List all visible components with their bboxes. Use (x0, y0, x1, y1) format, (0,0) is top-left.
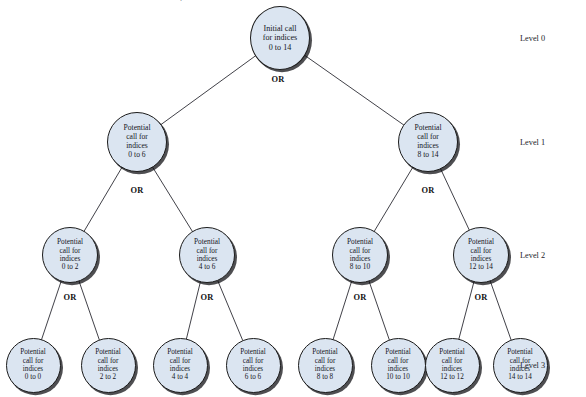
tree-node-8-to-10: Potentialcall forindices8 to 10 (332, 227, 388, 283)
node-text-line: indices (243, 365, 263, 373)
node-text-line: 2 to 2 (100, 373, 116, 381)
tree-edge (160, 55, 256, 125)
node-text-line: indices (315, 365, 335, 373)
node-text-line: indices (442, 365, 462, 373)
tree-node-0-to-0: Potentialcall forindices0 to 0 (6, 338, 61, 393)
tree-node-4-to-6: Potentialcall forindices4 to 6 (179, 227, 235, 283)
node-text-line: call for (243, 357, 264, 365)
node-text-line: indices (170, 365, 190, 373)
tree-edge (333, 281, 352, 340)
tree-edge (440, 168, 469, 230)
node-text-line: 0 to 14 (269, 43, 291, 52)
node-text-line: 12 to 14 (469, 263, 493, 271)
node-text-line: 4 to 6 (199, 263, 216, 271)
tree-edge (369, 281, 390, 340)
node-text-line: 12 to 12 (440, 373, 464, 381)
node-text-line: 14 to 14 (508, 373, 532, 381)
node-text-line: 0 to 2 (62, 263, 79, 271)
node-text-line: Potential (20, 348, 46, 356)
tree-edge (152, 167, 193, 232)
node-text-line: call for (98, 357, 119, 365)
node-text-line: call for (170, 357, 191, 365)
tree-edge (459, 281, 474, 339)
diagram-canvas: . Initial callfor indices0 to 14Potentia… (0, 0, 586, 397)
node-text-line: call for (23, 357, 44, 365)
node-text-line: Potential (439, 348, 465, 356)
tree-node-8-to-8: Potentialcall forindices8 to 8 (298, 338, 353, 393)
tree-node-12-to-12: Potentialcall forindices12 to 12 (425, 338, 480, 393)
node-text-line: 0 to 6 (128, 151, 145, 160)
tree-edge (304, 55, 405, 126)
node-text-line: Potential (507, 348, 533, 356)
level-label-2: Level 2 (520, 251, 545, 260)
tree-edge (217, 280, 242, 341)
tree-node-8-to-14: Potentialcall forindices8 to 14 (398, 112, 458, 172)
or-operator-label: OR (353, 293, 366, 302)
tree-node-4-to-4: Potentialcall forindices4 to 4 (153, 338, 208, 393)
level-label-1: Level 1 (520, 138, 545, 147)
tree-edge (374, 167, 413, 232)
node-text-line: 8 to 10 (350, 263, 370, 271)
node-text-line: indices (23, 365, 43, 373)
node-text-line: 8 to 8 (317, 373, 333, 381)
tree-edge (186, 281, 200, 339)
or-operator-label: OR (421, 186, 434, 195)
tree-node-2-to-2: Potentialcall forindices2 to 2 (81, 338, 136, 393)
tree-edge (490, 280, 511, 340)
tree-node-6-to-6: Potentialcall forindices6 to 6 (226, 338, 281, 393)
node-text-line: Potential (240, 348, 266, 356)
node-text-line: 4 to 4 (172, 373, 188, 381)
tree-edge (84, 167, 122, 232)
node-text-line: Initial call (263, 24, 296, 33)
node-text-line: call for (315, 357, 336, 365)
node-text-line: 6 to 6 (245, 373, 261, 381)
tree-edge (79, 281, 100, 340)
or-operator-label: OR (474, 293, 487, 302)
or-operator-label: OR (200, 293, 213, 302)
or-operator-label: OR (271, 75, 284, 84)
node-text-line: Potential (167, 348, 193, 356)
node-text-line: Potential (312, 348, 338, 356)
node-text-line: indices (98, 365, 118, 373)
top-cut-text: . (0, 0, 586, 5)
tree-node-12-to-14: Potentialcall forindices12 to 14 (453, 227, 509, 283)
tree-edge (41, 281, 61, 340)
level-label-0: Level 0 (520, 34, 545, 43)
node-text-line: call for (388, 357, 409, 365)
or-operator-label: OR (130, 186, 143, 195)
node-text-line: 8 to 14 (417, 151, 438, 160)
node-text-line: call for (442, 357, 463, 365)
node-text-line: 0 to 0 (25, 373, 41, 381)
node-text-line: Potential (385, 348, 411, 356)
node-text-line: Potential (95, 348, 121, 356)
level-label-3: Level 3 (520, 361, 545, 370)
node-text-line: 10 to 10 (386, 373, 410, 381)
tree-node-0-to-2: Potentialcall forindices0 to 2 (42, 227, 98, 283)
or-operator-label: OR (63, 293, 76, 302)
node-text-line: for indices (263, 33, 297, 42)
tree-node-0-to-14: Initial callfor indices0 to 14 (250, 6, 310, 70)
top-cut-text-label: . (180, 0, 184, 3)
tree-node-0-to-6: Potentialcall forindices0 to 6 (107, 112, 167, 172)
node-text-line: indices (388, 365, 408, 373)
tree-node-10-to-10: Potentialcall forindices10 to 10 (371, 338, 426, 393)
